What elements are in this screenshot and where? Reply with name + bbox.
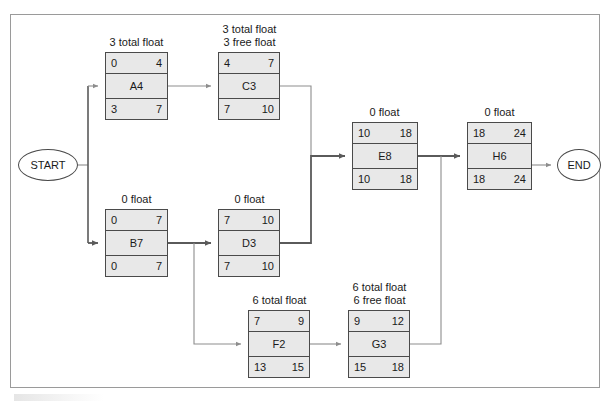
- f2-early-dates: 7 9: [249, 311, 309, 332]
- e8-late-start: 10: [358, 174, 370, 185]
- a4-late-dates: 3 7: [106, 98, 167, 119]
- float-label-b7-line1: 0 float: [85, 193, 188, 206]
- d3-name-row: D3: [219, 231, 279, 255]
- b7-early-start: 0: [111, 215, 117, 226]
- a4-name: A4: [130, 81, 143, 92]
- float-label-f2-line1: 6 total float: [228, 294, 331, 307]
- g3-late-dates: 15 18: [349, 356, 409, 377]
- h6-early-start: 18: [473, 128, 485, 139]
- e8-early-start: 10: [358, 128, 370, 139]
- float-label-h6-line1: 0 float: [448, 106, 551, 119]
- float-label-g3: 6 total float 6 free float: [328, 281, 431, 307]
- float-label-e8-line1: 0 float: [333, 106, 436, 119]
- a4-name-row: A4: [106, 74, 167, 98]
- e8-name-row: E8: [353, 144, 417, 168]
- float-label-c3-line1: 3 total float: [198, 23, 301, 36]
- h6-late-start: 18: [473, 174, 485, 185]
- start-node-label: START: [30, 159, 65, 171]
- network-diagram: START 3 total float 0 4 A4 3 7 3 total f…: [0, 0, 611, 404]
- h6-late-finish: 24: [514, 174, 526, 185]
- e8-early-finish: 18: [400, 128, 412, 139]
- float-label-c3-line2: 3 free float: [198, 36, 301, 49]
- g3-late-finish: 18: [392, 362, 404, 373]
- c3-late-finish: 10: [262, 104, 274, 115]
- page-edge-artifact: [14, 394, 104, 401]
- f2-late-start: 13: [254, 362, 266, 373]
- float-label-d3: 0 float: [198, 193, 301, 206]
- d3-late-dates: 7 10: [219, 255, 279, 276]
- d3-late-finish: 10: [262, 261, 274, 272]
- activity-node-d3[interactable]: 7 10 D3 7 10: [218, 209, 280, 277]
- float-label-g3-line1: 6 total float: [328, 281, 431, 294]
- f2-name-row: F2: [249, 332, 309, 356]
- c3-name-row: C3: [219, 74, 279, 98]
- a4-late-finish: 7: [156, 104, 162, 115]
- float-label-c3: 3 total float 3 free float: [198, 23, 301, 49]
- g3-late-start: 15: [354, 362, 366, 373]
- float-label-a4-line1: 3 total float: [85, 36, 188, 49]
- g3-early-finish: 12: [392, 316, 404, 327]
- f2-late-dates: 13 15: [249, 356, 309, 377]
- activity-node-f2[interactable]: 7 9 F2 13 15: [248, 310, 310, 378]
- a4-early-start: 0: [111, 58, 117, 69]
- h6-name-row: H6: [468, 144, 531, 168]
- activity-node-g3[interactable]: 9 12 G3 15 18: [348, 310, 410, 378]
- h6-late-dates: 18 24: [468, 168, 531, 189]
- f2-early-finish: 9: [298, 316, 304, 327]
- d3-early-start: 7: [224, 215, 230, 226]
- activity-node-c3[interactable]: 4 7 C3 7 10: [218, 52, 280, 120]
- e8-early-dates: 10 18: [353, 123, 417, 144]
- h6-name: H6: [492, 151, 506, 162]
- b7-early-dates: 0 7: [106, 210, 167, 231]
- h6-early-dates: 18 24: [468, 123, 531, 144]
- g3-name: G3: [372, 339, 387, 350]
- float-label-a4: 3 total float: [85, 36, 188, 49]
- e8-late-finish: 18: [400, 174, 412, 185]
- float-label-g3-line2: 6 free float: [328, 294, 431, 307]
- end-node-label: END: [567, 159, 590, 171]
- c3-early-start: 4: [224, 58, 230, 69]
- b7-name-row: B7: [106, 231, 167, 255]
- a4-early-dates: 0 4: [106, 53, 167, 74]
- g3-early-dates: 9 12: [349, 311, 409, 332]
- a4-late-start: 3: [111, 104, 117, 115]
- c3-late-start: 7: [224, 104, 230, 115]
- b7-late-finish: 7: [156, 261, 162, 272]
- c3-early-dates: 4 7: [219, 53, 279, 74]
- c3-name: C3: [242, 81, 256, 92]
- d3-early-finish: 10: [262, 215, 274, 226]
- g3-early-start: 9: [354, 316, 360, 327]
- activity-node-b7[interactable]: 0 7 B7 0 7: [105, 209, 168, 277]
- c3-early-finish: 7: [268, 58, 274, 69]
- d3-early-dates: 7 10: [219, 210, 279, 231]
- d3-late-start: 7: [224, 261, 230, 272]
- float-label-b7: 0 float: [85, 193, 188, 206]
- g3-name-row: G3: [349, 332, 409, 356]
- h6-early-finish: 24: [514, 128, 526, 139]
- b7-early-finish: 7: [156, 215, 162, 226]
- e8-name: E8: [378, 151, 391, 162]
- start-node: START: [18, 149, 78, 181]
- f2-early-start: 7: [254, 316, 260, 327]
- float-label-f2: 6 total float: [228, 294, 331, 307]
- b7-late-dates: 0 7: [106, 255, 167, 276]
- c3-late-dates: 7 10: [219, 98, 279, 119]
- b7-name: B7: [130, 238, 143, 249]
- d3-name: D3: [242, 238, 256, 249]
- b7-late-start: 0: [111, 261, 117, 272]
- float-label-h6: 0 float: [448, 106, 551, 119]
- activity-node-e8[interactable]: 10 18 E8 10 18: [352, 122, 418, 190]
- f2-name: F2: [273, 339, 286, 350]
- a4-early-finish: 4: [156, 58, 162, 69]
- float-label-e8: 0 float: [333, 106, 436, 119]
- activity-node-h6[interactable]: 18 24 H6 18 24: [467, 122, 532, 190]
- e8-late-dates: 10 18: [353, 168, 417, 189]
- end-node: END: [557, 149, 601, 181]
- activity-node-a4[interactable]: 0 4 A4 3 7: [105, 52, 168, 120]
- f2-late-finish: 15: [292, 362, 304, 373]
- float-label-d3-line1: 0 float: [198, 193, 301, 206]
